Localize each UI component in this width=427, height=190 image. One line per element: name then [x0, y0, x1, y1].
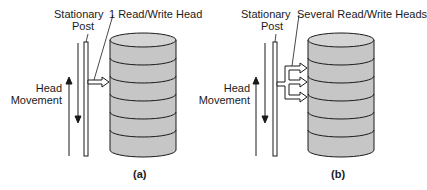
- read-write-heads-arrows-icon: [277, 63, 307, 102]
- head-movement-arrows-icon: [253, 43, 268, 156]
- movement-label-line2: Movement: [198, 94, 250, 106]
- caption-b: (b): [331, 168, 345, 180]
- head-movement-arrows-icon: [66, 43, 81, 156]
- movement-label-line1: Head: [10, 82, 62, 94]
- stationary-post: [273, 42, 277, 156]
- heads-label: Several Read/Write Heads: [297, 8, 427, 20]
- caption-a: (a): [133, 168, 146, 180]
- panel-b-multiple-heads: Stationary Post Several Read/Write Heads…: [212, 0, 424, 190]
- movement-label-line2: Movement: [10, 94, 62, 106]
- head-label: 1 Read/Write Head: [109, 8, 202, 20]
- post-label-line2: Post: [241, 20, 283, 32]
- head-movement-label: Head Movement: [198, 82, 250, 106]
- movement-label-line1: Head: [198, 82, 250, 94]
- read-write-head-arrow-icon: [88, 77, 109, 87]
- panel-a-single-head: Stationary Post 1 Read/Write Head Head M…: [0, 0, 212, 190]
- stationary-post-label: Stationary Post: [54, 8, 94, 32]
- post-label-line2: Post: [54, 20, 94, 32]
- disk-stack-icon: [110, 33, 176, 157]
- post-label-line1: Stationary: [241, 8, 283, 20]
- stationary-post: [84, 42, 88, 156]
- disk-stack-icon: [308, 33, 374, 157]
- post-label-line1: Stationary: [54, 8, 94, 20]
- head-movement-label: Head Movement: [10, 82, 62, 106]
- stationary-post-label: Stationary Post: [241, 8, 283, 32]
